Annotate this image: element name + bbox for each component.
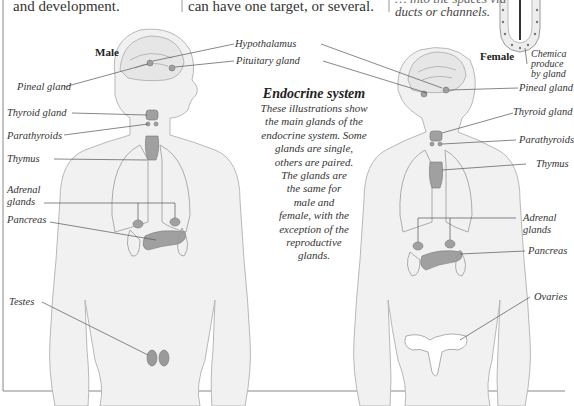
female-thyroid	[430, 131, 442, 141]
inset-caption-line: by gland	[531, 69, 567, 79]
female-parathyroid-l	[430, 142, 434, 146]
label-pituitary-gland: Pituitary gland	[236, 55, 300, 67]
caption-line: glands.	[249, 249, 379, 262]
male-thymus	[145, 136, 158, 160]
female-label-thyroid-gland: Thyroid gland	[513, 106, 572, 118]
male-label-thyroid-gland: Thyroid gland	[7, 107, 66, 119]
male-label-pancreas: Pancreas	[7, 214, 46, 226]
label-line: glands	[523, 224, 556, 236]
caption-block: Endocrine system These illustrations sho…	[249, 86, 379, 263]
female-adrenal-l	[413, 242, 423, 250]
male-pineal-gland	[147, 60, 153, 66]
female-label-adrenal-glands: Adrenal glands	[523, 212, 556, 236]
caption-line: others are paired.	[249, 156, 379, 169]
male-thyroid	[146, 110, 158, 120]
caption-line: glands are single,	[249, 142, 379, 155]
caption-line: The glands are	[249, 169, 379, 182]
male-label-parathyroids: Parathyroids	[7, 130, 62, 142]
male-label-pineal-gland: Pineal gland	[17, 81, 71, 93]
male-label-testes: Testes	[9, 296, 34, 308]
female-pineal-gland	[443, 87, 449, 93]
female-label-parathyroids: Parathyroids	[519, 134, 574, 146]
male-label-adrenal-glands: Adrenal glands	[7, 184, 40, 208]
female-label-ovaries: Ovaries	[534, 291, 567, 303]
male-heading: Male	[95, 46, 119, 58]
caption-line: female, with the	[249, 209, 379, 222]
male-label-thymus: Thymus	[7, 153, 40, 165]
caption-line: the same for	[249, 182, 379, 195]
male-testis-r	[159, 350, 169, 366]
male-adrenal-l	[133, 220, 143, 228]
caption-line: endocrine system. Some	[249, 129, 379, 142]
male-adrenal-r	[170, 218, 180, 226]
caption-body: These illustrations show the main glands…	[249, 102, 379, 263]
label-line: Adrenal	[7, 184, 40, 196]
male-parathyroid-r	[154, 122, 158, 126]
caption-line: male and	[249, 196, 379, 209]
female-label-thymus: Thymus	[536, 158, 569, 170]
label-line: Adrenal	[523, 212, 556, 224]
caption-line: These illustrations show	[249, 102, 379, 115]
intro-col3-tail-line2: ducts or channels.	[395, 4, 490, 20]
caption-line: exception of the	[249, 223, 379, 236]
label-hypothalamus: Hypothalamus	[235, 38, 296, 50]
female-thymus	[429, 162, 442, 188]
intro-col1-tail: and development.	[13, 0, 120, 15]
female-parathyroid-r	[438, 142, 442, 146]
male-testis-l	[147, 350, 157, 366]
male-body	[50, 29, 251, 406]
female-heading: Female	[480, 50, 514, 62]
female-label-pancreas: Pancreas	[528, 245, 567, 257]
inset-caption: Chemica produce by gland	[531, 49, 567, 79]
intro-col2-tail: can have one target, or several.	[188, 0, 374, 15]
male-pituitary-gland	[169, 65, 175, 71]
caption-title: Endocrine system	[249, 86, 379, 102]
female-label-pineal-gland: Pineal gland	[519, 82, 573, 94]
caption-line: reproductive	[249, 236, 379, 249]
caption-line: the main glands of the	[249, 115, 379, 128]
label-line: glands	[7, 196, 40, 208]
female-adrenal-r	[445, 240, 455, 248]
